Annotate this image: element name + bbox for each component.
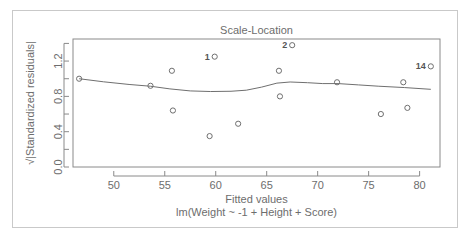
data-point <box>378 111 383 116</box>
data-point <box>170 108 175 113</box>
data-point <box>401 80 406 85</box>
data-point <box>236 121 241 126</box>
x-axis-tick-label: 60 <box>210 179 222 191</box>
data-point-label: 1 <box>205 52 210 62</box>
x-axis-tick-label: 80 <box>413 179 425 191</box>
y-axis-tick-label: 0.0 <box>52 159 64 174</box>
plot-canvas: 0.00.40.81.2√|Standardized residuals|505… <box>0 0 470 251</box>
y-axis-tick-label: 0.4 <box>52 124 64 139</box>
loess-smooth-line <box>79 79 431 92</box>
x-axis-tick-label: 50 <box>108 179 120 191</box>
x-axis-tick-label: 70 <box>312 179 324 191</box>
data-point <box>277 94 282 99</box>
y-axis-title: √|Standardized residuals| <box>24 41 36 165</box>
y-axis-tick-label: 1.2 <box>52 53 64 68</box>
y-axis-tick-label: 0.8 <box>52 89 64 104</box>
data-point <box>290 43 295 48</box>
x-axis-subtitle: lm(Weight ~ -1 + Height + Score) <box>176 206 337 218</box>
data-point-label: 2 <box>282 40 287 50</box>
data-point <box>207 134 212 139</box>
x-axis-tick-label: 55 <box>159 179 171 191</box>
scale-location-plot-figure: 0.00.40.81.2√|Standardized residuals|505… <box>0 0 470 251</box>
data-point <box>169 68 174 73</box>
data-point <box>428 64 433 69</box>
plot-title: Scale-Location <box>220 24 293 36</box>
plot-box-border <box>73 39 440 167</box>
x-axis-tick-label: 65 <box>261 179 273 191</box>
data-point <box>276 68 281 73</box>
x-axis-title: Fitted values <box>225 193 288 205</box>
data-point <box>405 105 410 110</box>
x-axis-tick-label: 75 <box>363 179 375 191</box>
data-point-label: 14 <box>416 61 426 71</box>
data-point <box>212 54 217 59</box>
